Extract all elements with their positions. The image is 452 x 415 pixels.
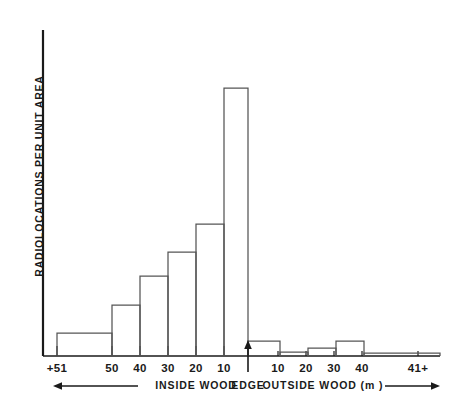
x-tick-label: 41+: [408, 362, 428, 374]
plot-canvas: [0, 0, 452, 415]
x-caption-label: OUTSIDE WOOD (m ): [263, 379, 384, 391]
x-tick-label: 20: [299, 362, 312, 374]
x-tick-label: 30: [327, 362, 340, 374]
x-caption-label: EDGE: [231, 379, 264, 391]
x-caption-label: INSIDE WOOD: [155, 379, 237, 391]
histogram-bar: [112, 305, 140, 356]
histogram-bar: [196, 224, 224, 356]
x-tick-label: 20: [189, 362, 202, 374]
histogram-bar: [248, 341, 280, 356]
histogram-bar: [140, 276, 168, 356]
x-tick-label: 10: [217, 362, 230, 374]
x-tick-label: 10: [271, 362, 284, 374]
x-tick-label: 40: [355, 362, 368, 374]
axes-group: [43, 30, 440, 356]
histogram-bar: [224, 88, 248, 356]
outside-wood-arrow-icon: [385, 382, 440, 390]
histogram-figure: RADIOLOCATIONS PER UNIT AREA +5150403020…: [0, 0, 452, 415]
histogram-bar: [336, 341, 364, 356]
x-tick-label: 30: [161, 362, 174, 374]
x-tick-label: +51: [47, 362, 67, 374]
inside-wood-arrow-icon: [53, 382, 138, 390]
x-tick-label: 50: [105, 362, 118, 374]
x-tick-label: 40: [133, 362, 146, 374]
histogram-bar: [57, 333, 112, 356]
histogram-bar: [168, 252, 196, 356]
bar-series: [57, 88, 440, 356]
histogram-bar: [308, 348, 336, 356]
